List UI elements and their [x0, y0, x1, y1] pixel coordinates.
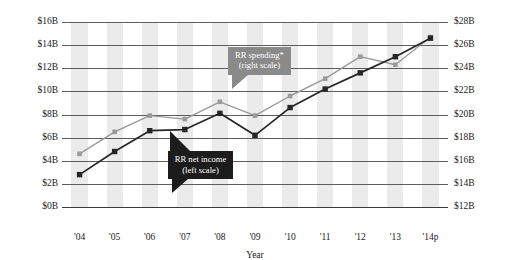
right-axis-tick-label: $20B: [454, 110, 475, 120]
x-axis-tick-label: '04: [74, 233, 85, 243]
left-axis-tick-label: $6B: [42, 133, 58, 143]
annotation-rr-net-income-line1: RR net income: [175, 154, 227, 164]
x-axis-title: Year: [62, 250, 448, 260]
x-axis-tick-label: '10: [284, 233, 295, 243]
data-point-marker: [218, 99, 223, 104]
callout-tail: [172, 179, 188, 193]
annotation-rr-spending-line2: (right scale): [235, 60, 284, 70]
right-axis-tick-label: $16B: [454, 156, 475, 166]
x-axis-tick-label: '08: [214, 233, 225, 243]
left-axis-tick-label: $12B: [37, 63, 58, 73]
left-axis-tick-label: $14B: [37, 40, 58, 50]
left-axis-tick-label: $2B: [42, 179, 58, 189]
data-point-marker: [358, 70, 363, 75]
right-axis-tick-label: $18B: [454, 133, 475, 143]
annotation-rr-net-income: RR net income (left scale): [168, 151, 234, 179]
data-point-marker: [287, 105, 292, 110]
data-point-marker: [322, 86, 327, 91]
right-axis-tick-label: $28B: [454, 17, 475, 27]
x-axis-tick-label: '12: [355, 233, 366, 243]
data-point-marker: [77, 172, 82, 177]
x-axis-line: [62, 207, 448, 208]
x-axis-tick-label: '06: [144, 233, 155, 243]
right-axis-tick-label: $26B: [454, 40, 475, 50]
data-point-marker: [112, 149, 117, 154]
right-axis-tick-label: $14B: [454, 179, 475, 189]
data-point-marker: [253, 113, 258, 118]
data-point-marker: [147, 113, 152, 118]
x-axis-tick-label: '13: [390, 233, 401, 243]
data-point-marker: [358, 54, 363, 59]
data-point-marker: [183, 117, 188, 122]
dual-axis-line-chart: $0B$2B$4B$6B$8B$10B$12B$14B$16B $12B$14B…: [0, 0, 524, 260]
plot-area: '04'05'06'07'08'09'10'11'12'13'14p Year …: [62, 22, 448, 207]
data-point-marker: [393, 62, 398, 67]
data-point-marker: [393, 54, 398, 59]
left-axis-tick-label: $4B: [42, 156, 58, 166]
annotation-rr-net-income-line2: (left scale): [175, 165, 227, 175]
data-point-marker: [288, 94, 293, 99]
data-point-marker: [217, 111, 222, 116]
callout-tail: [232, 75, 248, 89]
x-axis-tick-label: '09: [249, 233, 260, 243]
annotation-rr-spending-line1: RR spending*: [235, 50, 284, 60]
x-axis-tick-label: '11: [320, 233, 331, 243]
data-point-marker: [77, 152, 82, 157]
data-point-marker: [112, 130, 117, 135]
data-point-marker: [147, 128, 152, 133]
left-axis-tick-label: $16B: [37, 17, 58, 27]
data-point-marker: [252, 133, 257, 138]
annotation-rr-spending: RR spending* (right scale): [228, 47, 291, 75]
left-axis-tick-label: $8B: [42, 110, 58, 120]
right-axis-tick-label: $12B: [454, 202, 475, 212]
left-axis-tick-label: $0B: [42, 202, 58, 212]
right-axis-tick-label: $24B: [454, 63, 475, 73]
data-point-marker: [323, 76, 328, 81]
data-point-marker: [428, 35, 433, 40]
x-axis-tick-label: '14p: [422, 233, 438, 243]
x-axis-tick-label: '07: [179, 233, 190, 243]
right-axis-tick-label: $22B: [454, 86, 475, 96]
x-axis-tick-label: '05: [109, 233, 120, 243]
left-axis-tick-label: $10B: [37, 86, 58, 96]
callout-tail-up: [170, 131, 190, 151]
